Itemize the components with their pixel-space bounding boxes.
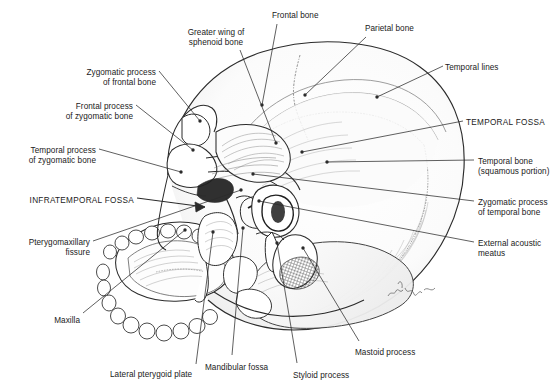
label-greater-wing-sphenoid: Greater wing of sphenoid bone bbox=[188, 28, 245, 48]
label-frontal-process-zygomatic: Frontal process of zygomatic bone bbox=[66, 102, 133, 122]
label-temporal-fossa: TEMPORAL FOSSA bbox=[466, 118, 545, 128]
label-temporal-lines: Temporal lines bbox=[445, 63, 499, 73]
label-external-acoustic-meatus: External acoustic meatus bbox=[478, 239, 541, 259]
label-temporal-process-zygomatic: Temporal process of zygomatic bone bbox=[29, 146, 96, 166]
label-frontal-bone: Frontal bone bbox=[272, 11, 319, 21]
label-mandibular-fossa: Mandibular fossa bbox=[205, 363, 268, 373]
label-pterygomaxillary-fissure: Pterygomaxillary fissure bbox=[29, 238, 90, 258]
label-infratemporal-fossa: INFRATEMPORAL FOSSA bbox=[30, 196, 134, 206]
label-lateral-pterygoid-plate: Lateral pterygoid plate bbox=[110, 370, 192, 380]
label-parietal-bone: Parietal bone bbox=[365, 24, 414, 34]
label-maxilla: Maxilla bbox=[54, 316, 80, 326]
anatomy-figure: Greater wing of sphenoid boneFrontal bon… bbox=[0, 0, 560, 390]
label-mastoid-process: Mastoid process bbox=[355, 348, 415, 358]
label-zygomatic-process-temporal: Zygomatic process of temporal bone bbox=[478, 198, 548, 218]
label-temporal-bone-squamous: Temporal bone (squamous portion) bbox=[478, 157, 549, 177]
label-layer: Greater wing of sphenoid boneFrontal bon… bbox=[0, 0, 560, 390]
label-styloid-process: Styloid process bbox=[293, 371, 349, 381]
label-zygomatic-process-frontal: Zygomatic process of frontal bone bbox=[86, 68, 156, 88]
